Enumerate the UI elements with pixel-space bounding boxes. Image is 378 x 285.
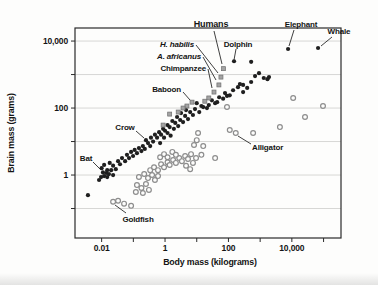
data-point-open-circle (135, 183, 140, 188)
data-point-open-circle (156, 168, 161, 173)
data-point-filled-dot (286, 47, 290, 51)
species-label-h-habilis: H. habilis (160, 40, 195, 49)
y-tick-label: 100 (54, 103, 68, 113)
data-point-filled-dot (262, 76, 266, 80)
data-point-filled-dot (105, 168, 109, 172)
data-point-gray-square (203, 99, 207, 103)
y-axis-title: Brain mass (grams) (6, 93, 16, 173)
data-point-open-circle (111, 199, 116, 204)
species-label-dolphin: Dolphin (224, 40, 253, 49)
data-point-open-circle (189, 152, 194, 157)
data-point-open-circle (122, 201, 127, 206)
data-point-filled-dot (151, 139, 155, 143)
data-point-gray-square (181, 106, 185, 110)
data-point-open-circle (194, 156, 199, 161)
data-point-open-circle (233, 131, 238, 136)
data-point-open-circle (199, 152, 204, 157)
data-point-filled-dot (129, 150, 133, 154)
data-point-filled-dot (217, 95, 221, 99)
leader-line-baboon (183, 92, 190, 100)
data-point-filled-dot (149, 136, 153, 140)
leader-line-elephant (289, 30, 294, 46)
data-point-gray-square (161, 123, 165, 127)
data-point-filled-dot (191, 113, 195, 117)
data-point-open-circle (201, 144, 206, 149)
x-tick-label: 1 (163, 243, 168, 253)
data-point-gray-square (207, 96, 211, 100)
data-point-filled-dot (241, 90, 245, 94)
data-point-filled-dot (120, 156, 124, 160)
data-point-filled-dot (172, 127, 176, 131)
species-label-chimpanzee: Chimpanzee (160, 64, 206, 73)
leader-line-dolphin (234, 49, 236, 60)
data-point-filled-dot (193, 107, 197, 111)
figure-page: 0.01110010,00010,0001001Body mass (kilog… (0, 0, 378, 285)
data-point-open-circle (192, 143, 197, 148)
data-point-open-circle (251, 131, 256, 136)
x-tick-label: 10,000 (279, 243, 305, 253)
data-point-filled-dot (102, 163, 106, 167)
data-point-open-circle (213, 156, 218, 161)
data-point-filled-dot (155, 136, 159, 140)
leader-line-humans (214, 31, 222, 64)
data-point-filled-dot (195, 101, 199, 105)
plot-border (75, 28, 341, 238)
data-point-filled-dot (215, 100, 219, 104)
data-point-open-circle (291, 96, 296, 101)
data-point-filled-dot (143, 147, 147, 151)
data-point-filled-dot (183, 114, 187, 118)
species-label-crow: Crow (115, 123, 135, 132)
data-point-filled-dot (228, 93, 232, 97)
data-point-filled-dot (249, 80, 253, 84)
data-point-open-circle (137, 175, 142, 180)
data-point-open-circle (321, 104, 326, 109)
data-point-filled-dot (176, 124, 180, 128)
data-point-open-circle (129, 203, 134, 208)
data-point-gray-square (212, 90, 216, 94)
data-point-filled-dot (197, 110, 201, 114)
data-point-filled-dot (249, 60, 253, 64)
data-point-filled-dot (158, 141, 162, 145)
data-point-filled-dot (159, 133, 163, 137)
data-point-filled-dot (162, 136, 166, 140)
data-point-open-circle (147, 187, 152, 192)
data-point-gray-square (219, 75, 223, 79)
x-tick-label: 0.01 (94, 243, 110, 253)
data-point-open-circle (303, 115, 308, 120)
species-label-bat: Bat (80, 154, 93, 163)
data-point-filled-dot (267, 75, 271, 79)
data-point-filled-dot (175, 115, 179, 119)
data-point-filled-dot (168, 125, 172, 129)
data-point-filled-dot (135, 151, 139, 155)
data-point-gray-square (217, 83, 221, 87)
data-point-gray-square (185, 104, 189, 108)
species-label-humans: Humans (194, 19, 229, 29)
data-point-open-circle (133, 190, 138, 195)
data-point-filled-dot (108, 161, 112, 165)
data-point-open-circle (156, 174, 161, 179)
species-label-a-africanus: A. africanus (156, 52, 202, 61)
data-point-filled-dot (123, 159, 127, 163)
data-point-gray-square (190, 100, 194, 104)
data-point-filled-dot (131, 154, 135, 158)
data-point-open-circle (167, 163, 172, 168)
species-label-alligator: Alligator (252, 143, 283, 152)
data-point-open-circle (227, 128, 232, 133)
leader-line-bat (93, 162, 101, 170)
data-point-filled-dot (231, 88, 235, 92)
data-point-open-circle (162, 165, 167, 170)
data-point-gray-square (222, 67, 226, 71)
data-point-filled-dot (169, 134, 173, 138)
data-point-filled-dot (241, 83, 245, 87)
data-point-filled-dot (107, 172, 111, 176)
data-point-filled-dot (111, 173, 115, 177)
data-point-open-circle (150, 173, 155, 178)
data-point-filled-dot (181, 120, 185, 124)
leader-line-alligator (238, 136, 251, 144)
data-point-filled-dot (221, 97, 225, 101)
data-point-filled-dot (111, 164, 115, 168)
brain-vs-body-mass-scatter-chart: 0.01110010,00010,0001001Body mass (kilog… (0, 0, 378, 285)
data-point-open-circle (179, 159, 184, 164)
data-point-filled-dot (109, 168, 113, 172)
species-label-whale: Whale (328, 27, 352, 36)
